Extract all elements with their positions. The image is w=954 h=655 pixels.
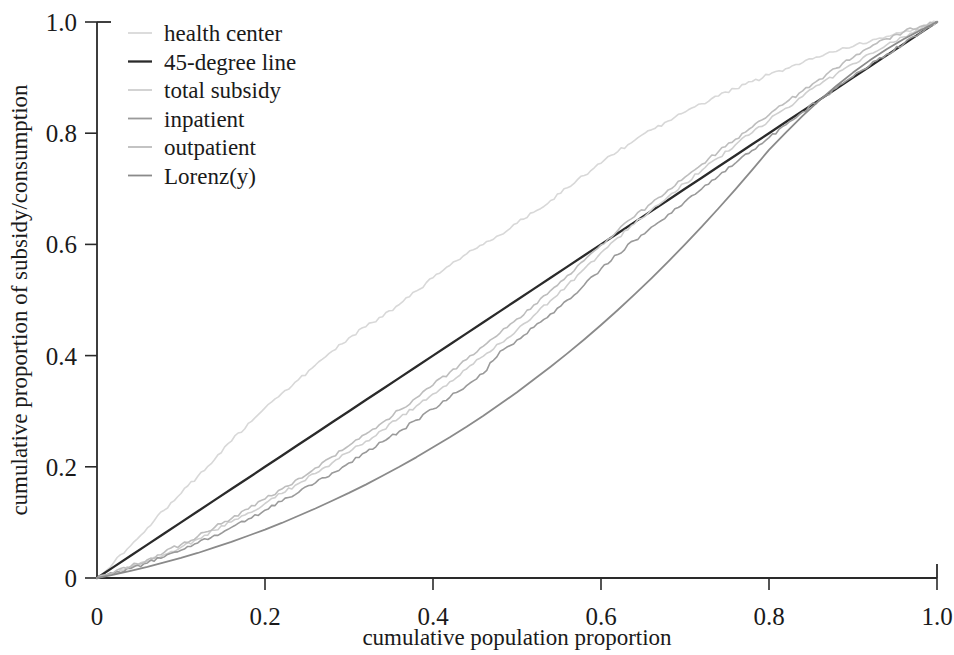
legend-item-inpatient: inpatient [128, 107, 245, 132]
x-axis-title: cumulative population proportion [362, 625, 672, 650]
legend: health center45-degree linetotal subsidy… [128, 21, 296, 189]
legend-label: 45-degree line [164, 50, 296, 75]
legend-item-total-subsidy: total subsidy [128, 78, 281, 103]
x-tick-label: 0.2 [249, 603, 280, 630]
y-tick-label: 0.6 [46, 231, 77, 258]
y-tick-label: 0.8 [46, 120, 77, 147]
data-curves [97, 21, 937, 578]
legend-label: inpatient [164, 107, 245, 132]
legend-label: total subsidy [164, 78, 281, 103]
chart-figure: 00.20.40.60.81.000.20.40.60.81.0 cumulat… [0, 0, 954, 655]
x-tick-label: 0.8 [753, 603, 784, 630]
y-axis-title: cumulative proportion of subsidy/consump… [7, 84, 32, 516]
y-tick-label: 0.4 [46, 343, 78, 370]
lorenz-curve-chart: 00.20.40.60.81.000.20.40.60.81.0 cumulat… [0, 0, 954, 655]
y-tick-label: 1.0 [46, 9, 77, 36]
x-tick-label: 0 [91, 603, 104, 630]
legend-label: Lorenz(y) [164, 164, 256, 189]
legend-label: health center [164, 21, 282, 46]
legend-item-health-center: health center [128, 21, 282, 46]
legend-item-lorenz-y: Lorenz(y) [128, 164, 256, 189]
y-tick-label: 0.2 [46, 454, 77, 481]
axis-titles: cumulative population proportioncumulati… [7, 84, 672, 650]
legend-item-outpatient: outpatient [128, 135, 257, 160]
y-tick-label: 0 [65, 565, 78, 592]
x-tick-label: 1.0 [921, 603, 952, 630]
legend-label: outpatient [164, 135, 257, 160]
legend-item-45-degree-line: 45-degree line [128, 50, 296, 75]
